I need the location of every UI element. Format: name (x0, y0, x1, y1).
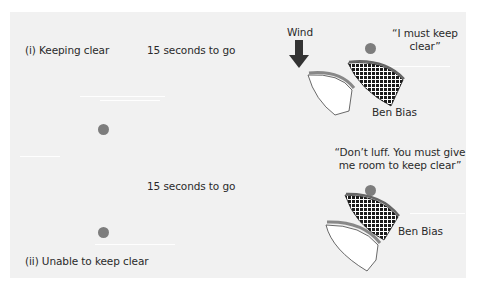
wind-arrow-icon (289, 40, 309, 68)
white-boat-1 (308, 73, 354, 115)
boats-diagram (0, 0, 480, 289)
hatched-boat-ben-bias-1 (348, 61, 404, 106)
